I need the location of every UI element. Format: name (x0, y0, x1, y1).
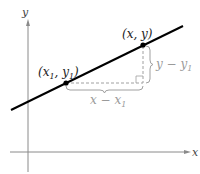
y-axis-arrow-icon (26, 19, 30, 26)
rise-label: y − y1 (155, 57, 192, 73)
run-label: x − x1 (90, 93, 126, 109)
point-x1-y1 (63, 80, 68, 85)
rise-brace (146, 46, 153, 83)
point-2-label: (x, y) (122, 27, 153, 41)
point-x-y (140, 42, 145, 47)
point-slope-diagram: y x (x1, y1) (x, y) x − x1 y − y1 (0, 0, 200, 174)
x-axis-arrow-icon (184, 150, 191, 154)
run-brace (66, 86, 143, 93)
x-axis-label: x (192, 146, 199, 159)
x-axis (10, 150, 191, 154)
y-axis-label: y (21, 6, 29, 19)
y-axis (26, 19, 30, 172)
right-angle-marker (136, 76, 143, 83)
point-1-label: (x1, y1) (38, 65, 79, 81)
